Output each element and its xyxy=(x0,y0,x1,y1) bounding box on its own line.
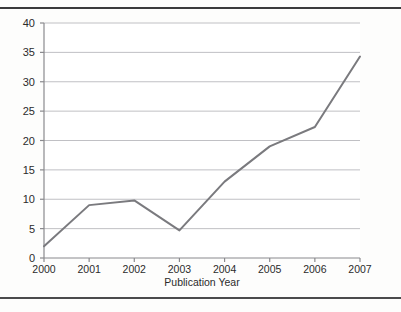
y-axis-tick-label: 15 xyxy=(23,164,35,176)
y-axis-tick-label: 20 xyxy=(23,135,35,147)
y-axis-tick-label: 25 xyxy=(23,105,35,117)
y-axis-tick-label: 5 xyxy=(29,223,35,235)
y-axis-tick-label: 10 xyxy=(23,193,35,205)
y-axis-tick-label: 30 xyxy=(23,76,35,88)
x-axis-tick-label: 2000 xyxy=(32,263,56,275)
x-axis-tick-label: 2005 xyxy=(258,263,282,275)
y-axis-tick-labels: 0510152025303540 xyxy=(23,17,35,264)
x-axis-tick-labels: 20002001200220032004200520062007 xyxy=(32,263,372,275)
x-axis-tick-label: 2001 xyxy=(77,263,101,275)
y-axis-tick-label: 40 xyxy=(23,17,35,29)
x-axis-tick-label: 2004 xyxy=(213,263,237,275)
x-axis-tick-label: 2007 xyxy=(348,263,372,275)
x-axis-tick-label: 2003 xyxy=(168,263,192,275)
x-axis-title: Publication Year xyxy=(164,276,240,288)
line-chart: 0510152025303540 20002001200220032004200… xyxy=(0,0,401,312)
y-axis-tick-label: 35 xyxy=(23,46,35,58)
chart-figure: 0510152025303540 20002001200220032004200… xyxy=(0,0,401,312)
x-axis-tick-label: 2006 xyxy=(303,263,327,275)
x-axis-tick-label: 2002 xyxy=(123,263,147,275)
